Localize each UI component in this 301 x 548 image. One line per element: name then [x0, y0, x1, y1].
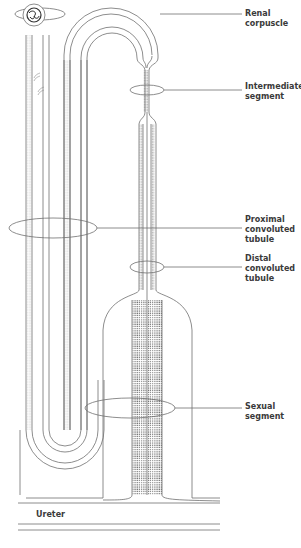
label-ureter: Ureter — [36, 510, 65, 520]
label-proximal-convoluted-tubule: Proximal convoluted tubule — [245, 215, 295, 245]
renal-corpuscle-glyph — [23, 4, 45, 26]
granular-fills — [27, 35, 163, 495]
label-renal-corpuscle: Renal corpuscle — [245, 9, 301, 29]
bottom-loops — [20, 380, 104, 495]
sexual-segment-walls — [26, 290, 220, 501]
label-intermediate-segment: Intermediate segment — [245, 82, 301, 102]
brush-border-marks — [34, 73, 44, 95]
label-distal-convoluted-tubule: Distal convoluted tubule — [245, 254, 295, 284]
leader-lines — [9, 8, 242, 418]
label-sexual-segment: Sexual segment — [245, 402, 284, 422]
